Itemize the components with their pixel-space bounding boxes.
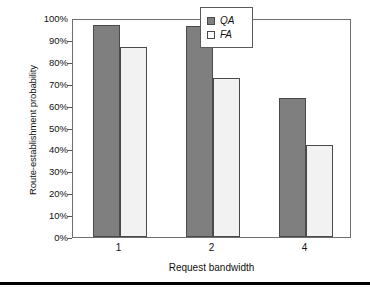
legend-item-fa: FA [207,28,246,41]
chart-legend: QA FA [200,7,253,48]
legend-swatch-qa-icon [207,17,215,25]
legend-label-qa: QA [220,16,234,26]
bar-fa-4 [306,145,333,237]
y-axis-tick-label: 50% [24,124,68,134]
y-axis-tick-label: 70% [24,80,68,90]
y-axis-tick-label: 80% [24,58,68,68]
x-axis-tick-label: 2 [192,242,232,253]
y-axis-tick-label: 60% [24,102,68,112]
y-axis-tick-label: 40% [24,145,68,155]
bar-qa-1 [93,25,120,237]
legend-swatch-fa-icon [207,31,215,39]
y-axis-tick-label: 90% [24,36,68,46]
bar-fa-2 [213,78,240,237]
bottom-divider [0,282,370,285]
plot-area [72,19,351,238]
bar-qa-2 [186,26,213,237]
y-axis-tick-label: 0% [24,233,68,243]
x-axis-tick-label: 4 [285,242,325,253]
legend-item-qa: QA [207,14,246,27]
x-axis-title: Request bandwidth [72,262,351,273]
y-axis-tick-label: 20% [24,189,68,199]
y-axis-tick-label: 30% [24,167,68,177]
x-axis-tick-label: 1 [99,242,139,253]
y-axis-tick-label: 100% [24,14,68,24]
bar-fa-1 [120,47,147,237]
legend-label-fa: FA [220,30,232,40]
chart-figure: Route-establishment probability 0%10%20%… [0,0,370,292]
y-axis-tick-mark [67,238,72,239]
y-axis-tick-label: 10% [24,211,68,221]
bar-qa-4 [279,98,306,237]
